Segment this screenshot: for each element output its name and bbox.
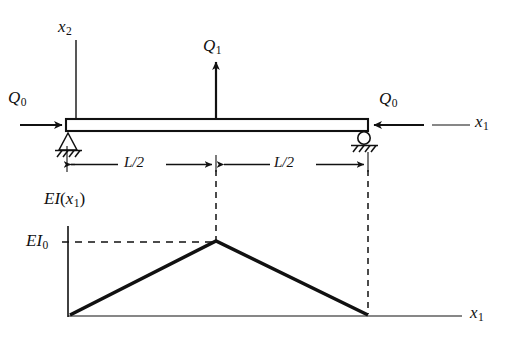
beam-rigidity-figure: x2 Q0 Q1 Q0 x1 L/2 L/2 EI(x1) EI0 x1 xyxy=(0,0,506,345)
rigidity-y-axis-label: EI(x1) xyxy=(44,190,85,210)
dimension-label-left: L/2 xyxy=(124,155,144,170)
left-axial-load-label: Q0 xyxy=(8,89,27,109)
x2-axis-label: x2 xyxy=(58,18,72,38)
right-axial-load-label: Q0 xyxy=(379,90,398,110)
right-roller-support xyxy=(351,132,378,152)
dimension-label-right: L/2 xyxy=(274,155,294,170)
midspan-load-label: Q1 xyxy=(203,37,222,57)
ei0-value-label: EI0 xyxy=(26,232,48,252)
x1-axis-label-bottom: x1 xyxy=(470,304,484,324)
dimension-right-half xyxy=(224,152,368,172)
figure-canvas xyxy=(0,0,506,345)
left-pin-support xyxy=(55,133,82,157)
rigidity-profile-curve xyxy=(70,241,368,315)
x1-axis-label-top: x1 xyxy=(475,113,489,133)
beam-body xyxy=(66,119,368,131)
